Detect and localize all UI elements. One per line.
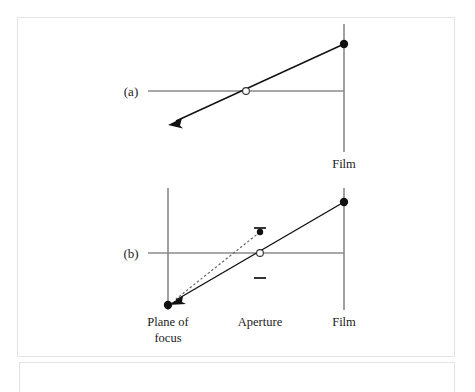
object-point-dot-b	[164, 301, 172, 309]
image-point-dot-b	[340, 198, 348, 206]
aperture-open-circle-b	[257, 250, 264, 257]
panel-label-a: (a)	[124, 84, 138, 99]
aperture-open-circle-a	[243, 88, 250, 95]
chief-ray-a	[176, 44, 344, 121]
panel-b: (b) Plane of focus Aperture Film	[123, 188, 356, 345]
plane-of-focus-label-line1: Plane of	[147, 315, 189, 329]
image-point-dot-a	[340, 40, 348, 48]
off-axis-point-dot-b	[257, 229, 263, 235]
film-label-b: Film	[332, 315, 356, 329]
film-label-a: Film	[332, 157, 356, 171]
plane-of-focus-label-line2: focus	[154, 331, 181, 345]
panel-label-b: (b)	[123, 246, 138, 261]
aperture-label-b: Aperture	[238, 315, 283, 329]
blurred-ray-dashed-b	[176, 232, 260, 299]
panel-a: (a) Film	[124, 24, 356, 171]
ray-arrowhead-a	[168, 118, 183, 129]
